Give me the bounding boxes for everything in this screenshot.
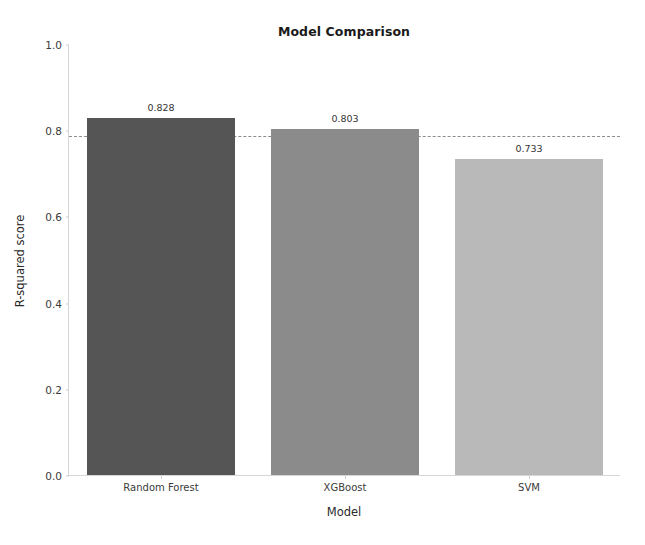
x-tick-label: XGBoost [324,482,367,493]
y-tick-mark [66,389,70,390]
chart-title: Model Comparison [68,24,620,39]
bar-value-label: 0.733 [515,143,542,154]
x-axis-label: Model [68,505,620,519]
y-axis-label-text: R-squared score [13,214,27,307]
bar[interactable]: 0.733 [455,159,602,475]
y-tick-mark [66,476,70,477]
y-tick-label: 0.2 [45,384,62,396]
y-tick-label: 0.6 [45,211,62,223]
y-tick-mark [66,45,70,46]
y-tick-label: 0.0 [45,470,62,482]
bar[interactable]: 0.828 [87,118,234,475]
y-axis-label: R-squared score [12,45,28,476]
bar-value-label: 0.828 [147,102,174,113]
y-tick-label: 1.0 [45,39,62,51]
bar-value-label: 0.803 [331,113,358,124]
x-tick-label: SVM [518,482,540,493]
chart-figure: Model Comparison R-squared score 0.00.20… [0,0,645,545]
y-tick-mark [66,131,70,132]
x-tick-mark [529,475,530,479]
y-tick-mark [66,303,70,304]
x-tick-mark [161,475,162,479]
y-tick-label: 0.4 [45,298,62,310]
plot-area: 0.00.20.40.60.81.0 0.8280.8030.733 Rando… [68,45,620,476]
x-tick-label: Random Forest [123,482,198,493]
y-tick-label: 0.8 [45,125,62,137]
bar[interactable]: 0.803 [271,129,418,475]
y-tick-mark [66,217,70,218]
x-tick-mark [345,475,346,479]
